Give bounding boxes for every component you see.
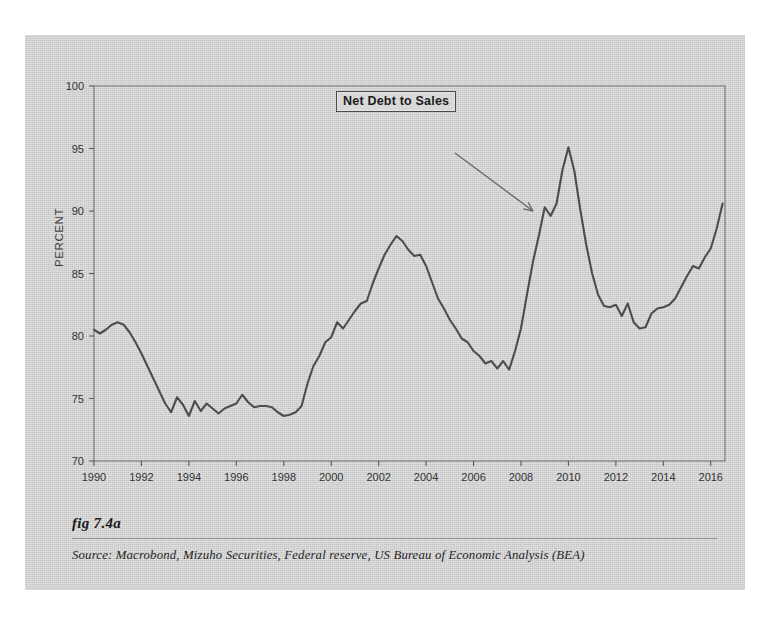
svg-text:2012: 2012 xyxy=(604,471,628,483)
svg-text:100: 100 xyxy=(66,80,84,92)
svg-text:95: 95 xyxy=(72,143,84,155)
y-axis-title: PERCENT xyxy=(53,208,65,267)
svg-text:2016: 2016 xyxy=(699,471,723,483)
svg-text:1990: 1990 xyxy=(82,471,106,483)
data-series-line xyxy=(94,147,723,416)
svg-text:2000: 2000 xyxy=(319,471,343,483)
svg-text:85: 85 xyxy=(72,268,84,280)
annotation-arrow xyxy=(455,153,533,211)
figure-number: fig 7.4a xyxy=(50,515,720,532)
svg-text:2014: 2014 xyxy=(651,471,675,483)
svg-text:80: 80 xyxy=(72,330,84,342)
svg-text:2006: 2006 xyxy=(461,471,485,483)
x-axis-ticks: 1990199219941996199820002002200420062008… xyxy=(82,461,723,483)
annotation-label: Net Debt to Sales xyxy=(336,91,456,112)
svg-text:1996: 1996 xyxy=(224,471,248,483)
y-axis-ticks: 707580859095100 xyxy=(66,80,94,467)
svg-text:75: 75 xyxy=(72,393,84,405)
svg-text:90: 90 xyxy=(72,205,84,217)
caption-divider xyxy=(72,538,717,539)
chart-area: 707580859095100 199019921994199619982000… xyxy=(25,35,745,505)
plot-frame xyxy=(94,86,725,461)
svg-text:70: 70 xyxy=(72,455,84,467)
caption-block: fig 7.4a Source: Macrobond, Mizuho Secur… xyxy=(50,515,720,563)
svg-text:1998: 1998 xyxy=(272,471,296,483)
svg-text:2010: 2010 xyxy=(556,471,580,483)
svg-text:1992: 1992 xyxy=(129,471,153,483)
svg-text:2004: 2004 xyxy=(414,471,438,483)
svg-text:2002: 2002 xyxy=(366,471,390,483)
figure-panel: 707580859095100 199019921994199619982000… xyxy=(25,35,745,590)
svg-text:1994: 1994 xyxy=(177,471,201,483)
svg-text:2008: 2008 xyxy=(509,471,533,483)
source-note: Source: Macrobond, Mizuho Securities, Fe… xyxy=(50,548,720,563)
